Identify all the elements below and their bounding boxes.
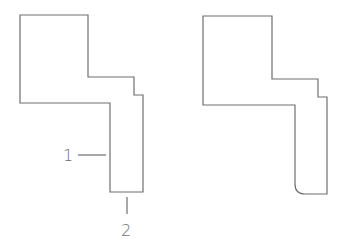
label-1: 1 xyxy=(63,146,73,165)
right-profile-outline xyxy=(203,16,327,194)
left-profile: 1 2 xyxy=(20,15,143,240)
right-profile xyxy=(203,16,327,194)
label-2: 2 xyxy=(121,221,131,240)
diagram-canvas: 1 2 xyxy=(0,0,343,244)
left-profile-outline xyxy=(20,15,143,192)
